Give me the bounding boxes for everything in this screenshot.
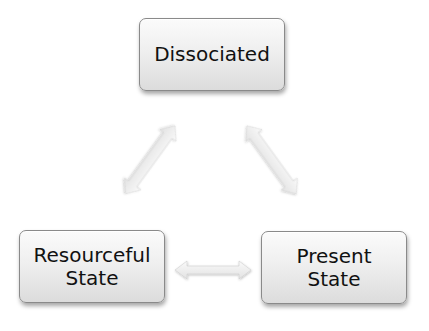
node-present-state: Present State [261, 231, 407, 304]
node-label-line: Present [296, 245, 371, 268]
node-label-line: Resourceful [34, 244, 151, 267]
node-label: Dissociated [154, 43, 270, 66]
node-label: Present State [296, 245, 371, 291]
arrow-dissociated-resourceful [118, 120, 184, 200]
node-label-line: Dissociated [154, 43, 270, 66]
node-label: Resourceful State [34, 244, 151, 290]
node-resourceful-state: Resourceful State [19, 230, 165, 303]
node-dissociated: Dissociated [139, 18, 285, 91]
arrow-dissociated-present [239, 120, 305, 200]
arrow-resourceful-present [175, 261, 251, 279]
node-label-line: State [34, 267, 151, 290]
node-label-line: State [296, 268, 371, 291]
